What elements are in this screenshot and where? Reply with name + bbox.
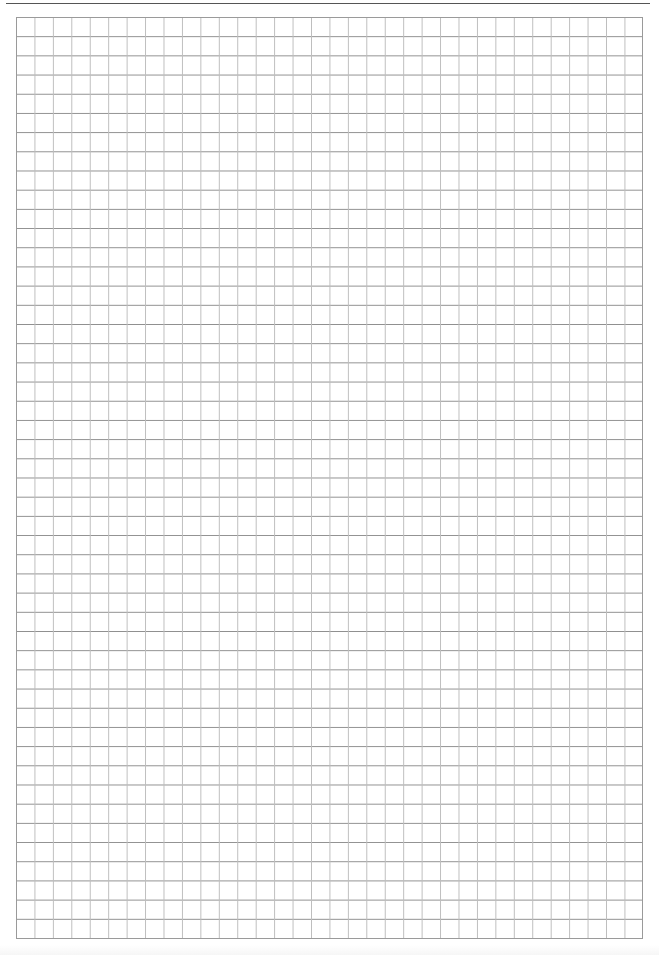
graph-paper-grid	[16, 17, 643, 939]
page-bottom-edge	[0, 945, 659, 955]
header-rule	[6, 3, 650, 4]
header-text	[200, 0, 500, 2]
